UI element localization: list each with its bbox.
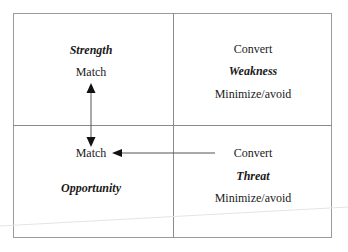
- weakness-minimize-label: Minimize/avoid: [215, 87, 292, 101]
- opportunity-title: Opportunity: [61, 181, 121, 195]
- horizontal-divider: [13, 125, 332, 126]
- threat-minimize-label: Minimize/avoid: [215, 191, 292, 205]
- strength-title: Strength: [70, 43, 113, 57]
- weakness-title: Weakness: [229, 64, 277, 78]
- strength-match-label: Match: [76, 65, 107, 79]
- threat-title: Threat: [236, 169, 269, 183]
- weakness-convert-label: Convert: [234, 42, 273, 56]
- opportunity-match-label: Match: [76, 146, 107, 160]
- threat-convert-label: Convert: [234, 146, 273, 160]
